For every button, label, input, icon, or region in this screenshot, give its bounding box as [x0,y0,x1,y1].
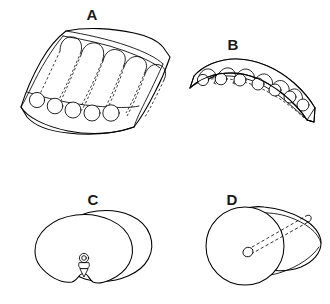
panel-a-tube-end-5 [103,105,119,121]
panel-b-tube-end-3 [234,74,246,86]
panel-a-tube-end-3 [65,102,81,118]
panel-b-label: B [228,36,239,53]
panel-d-label: D [227,191,238,208]
panel-a-label: A [87,6,98,23]
panel-a-tube-end-2 [47,98,63,114]
panel-a-tube-end-1 [29,92,44,107]
panel-c-port-circle-inner [82,256,87,261]
figure-root: A [0,0,330,304]
panel-b-tube-end-2 [215,73,227,85]
panel-c-nozzle-collar [79,263,90,269]
panel-b-tube-end-4 [252,78,264,90]
panel-c-label: C [88,191,99,208]
panel-d-near-end-face [206,207,284,285]
panel-b-tube-end-1 [197,74,208,85]
technical-diagram-svg: A [0,0,330,304]
panel-a-tube-end-4 [84,105,100,121]
